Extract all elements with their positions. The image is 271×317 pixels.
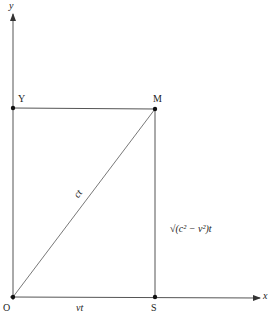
y-axis-label: y — [9, 0, 13, 11]
point-m — [153, 107, 157, 111]
top-line-y-to-m — [13, 108, 155, 109]
label-y-point: Y — [18, 93, 25, 104]
diagram-canvas — [0, 0, 271, 317]
point-y — [11, 106, 15, 110]
diagonal-o-to-m — [13, 109, 155, 297]
label-m-point: M — [153, 93, 162, 104]
label-origin: O — [3, 302, 10, 313]
x-axis — [10, 297, 260, 298]
point-s — [153, 295, 157, 299]
label-vertical-segment: √(c² − v²)t — [170, 223, 212, 234]
label-base-vt: vt — [76, 302, 83, 313]
label-s-point: S — [151, 302, 157, 313]
point-origin — [11, 295, 15, 299]
x-axis-label: x — [263, 290, 267, 301]
